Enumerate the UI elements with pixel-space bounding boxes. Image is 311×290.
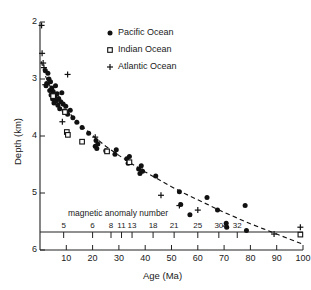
x-tick-label-30: 30 [107, 253, 131, 263]
data-point [70, 115, 75, 120]
anomaly-axis-title: magnetic anomaly number [68, 208, 168, 218]
data-point [112, 152, 117, 157]
data-point [68, 108, 73, 113]
data-point [94, 146, 99, 151]
legend-markers [107, 31, 113, 71]
x-axis-ticks [66, 245, 303, 250]
data-point [59, 119, 65, 125]
x-tick-label-70: 70 [212, 253, 236, 263]
data-point [65, 71, 71, 77]
data-point [59, 90, 64, 95]
y-tick-label-3: 3 [27, 73, 37, 83]
anomaly-tick-label-5: 5 [54, 221, 74, 230]
data-point [45, 71, 50, 76]
data-point [243, 203, 248, 208]
legend-label-indian-ocean: Indian Ocean [118, 44, 172, 54]
x-tick-label-60: 60 [186, 253, 210, 263]
legend-label-atlantic-ocean: Atlantic Ocean [118, 61, 177, 71]
y-tick-label-4: 4 [27, 130, 37, 140]
anomaly-tick-label-18: 18 [143, 221, 163, 230]
legend-marker-filled-circle [108, 31, 113, 36]
x-tick-label-10: 10 [54, 253, 78, 263]
data-point [205, 195, 210, 200]
anomaly-tick-label-6: 6 [83, 221, 103, 230]
data-point [74, 120, 79, 125]
series-markers-atlantic-ocean [39, 22, 304, 237]
anomaly-tick-label-30: 30 [209, 221, 229, 230]
y-tick-label-6: 6 [27, 244, 37, 254]
data-point [127, 160, 132, 165]
x-tick-label-20: 20 [81, 253, 105, 263]
data-point [158, 192, 164, 198]
data-point [114, 147, 119, 152]
x-tick-label-100: 100 [291, 253, 311, 263]
data-point [53, 83, 58, 88]
anomaly-tick-label-21: 21 [164, 221, 184, 230]
data-point [195, 207, 201, 213]
data-point [105, 149, 110, 154]
data-point [215, 208, 220, 213]
data-point [63, 104, 68, 109]
data-point [51, 94, 56, 99]
data-point [177, 189, 182, 194]
data-point [187, 212, 192, 217]
data-point [80, 139, 85, 144]
legend-marker-plus [107, 64, 113, 70]
legend-marker-open-square [108, 48, 113, 53]
y-axis-title: Depth (km) [12, 118, 23, 165]
figure-container: Depth (km) Age (Ma) magnetic anomaly num… [0, 0, 311, 290]
x-tick-label-40: 40 [133, 253, 157, 263]
legend-label-pacific-ocean: Pacific Ocean [118, 27, 174, 37]
anomaly-tick-label-32: 32 [227, 221, 247, 230]
data-point [153, 173, 158, 178]
data-point [95, 141, 100, 146]
anomaly-axis-ticks [64, 232, 238, 238]
data-point [63, 110, 68, 115]
data-point [80, 125, 85, 130]
data-point [57, 106, 62, 111]
x-tick-label-50: 50 [160, 253, 184, 263]
data-point [40, 60, 46, 66]
anomaly-tick-label-25: 25 [188, 221, 208, 230]
y-tick-label-5: 5 [27, 187, 37, 197]
data-point [127, 154, 132, 159]
y-tick-label-2: 2 [27, 16, 37, 26]
data-point [297, 224, 303, 230]
data-point [298, 232, 303, 237]
data-point [66, 133, 71, 138]
anomaly-tick-label-13: 13 [122, 221, 142, 230]
data-point [48, 79, 53, 84]
x-tick-label-90: 90 [265, 253, 289, 263]
x-tick-label-80: 80 [238, 253, 262, 263]
x-axis-title: Age (Ma) [143, 270, 182, 281]
data-point [86, 131, 91, 136]
